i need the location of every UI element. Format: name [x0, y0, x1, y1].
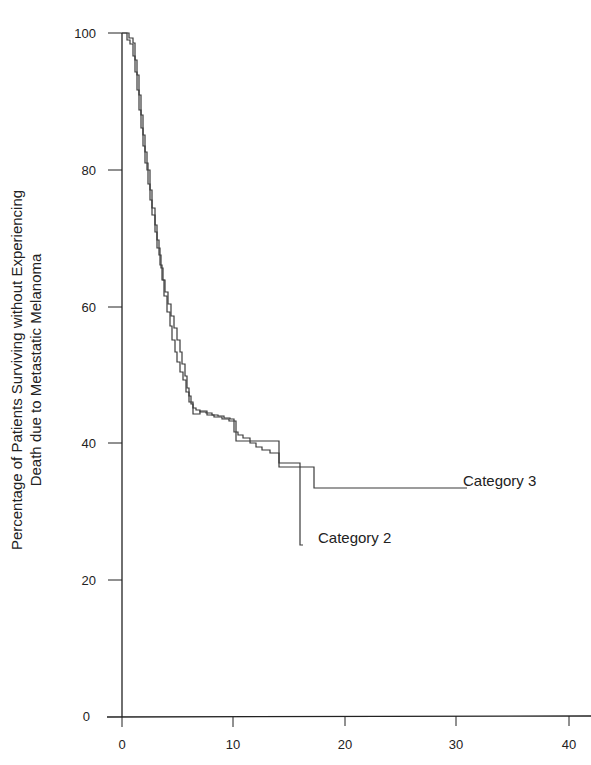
y-tick-label-60: 60: [82, 300, 96, 315]
x-tick-labels: 0 10 20 30 40: [118, 737, 576, 752]
y-tick-label-100: 100: [74, 26, 96, 41]
x-ticks: [122, 716, 569, 727]
y-tick-label-20: 20: [82, 573, 96, 588]
y-ticks: [108, 33, 122, 580]
x-tick-label-20: 20: [338, 737, 352, 752]
y-tick-label-80: 80: [82, 163, 96, 178]
x-tick-label-30: 30: [449, 737, 463, 752]
y-axis-title-line1: Percentage of Patients Surviving without…: [8, 190, 25, 550]
x-tick-label-0: 0: [118, 737, 125, 752]
y-axis-title: Percentage of Patients Surviving without…: [8, 190, 44, 550]
series-category-3: [122, 33, 467, 488]
y-tick-labels: 100 80 60 40 20 0: [74, 26, 96, 724]
y-tick-label-40: 40: [82, 436, 96, 451]
label-category-3: Category 3: [463, 472, 536, 489]
y-tick-label-0: 0: [83, 709, 90, 724]
x-tick-label-10: 10: [226, 737, 240, 752]
x-axis: [107, 716, 591, 717]
y-axis-title-line2: Death due to Metastatic Melanoma: [27, 253, 44, 486]
label-category-2: Category 2: [318, 529, 391, 546]
km-chart: 100 80 60 40 20 0 0 10 20 30 40 Percenta…: [0, 0, 591, 765]
series-category-2: [122, 33, 303, 545]
x-tick-label-40: 40: [562, 737, 576, 752]
